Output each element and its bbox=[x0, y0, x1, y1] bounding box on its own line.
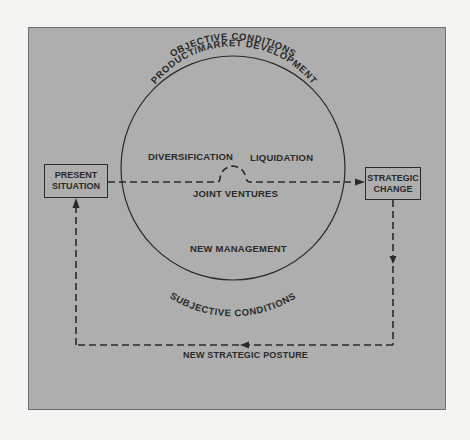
subjective-conditions-label: SUBJECTIVE CONDITIONS bbox=[168, 290, 298, 318]
diagram-canvas: OBJECTIVE CONDITIONS PRODUCT/MARKET DEVE… bbox=[0, 0, 470, 440]
arrow-left-icon bbox=[240, 342, 249, 349]
present-situation-line1: PRESENT bbox=[55, 170, 98, 181]
new-strategic-posture-label: NEW STRATEGIC POSTURE bbox=[183, 350, 308, 360]
strategic-change-node: STRATEGIC CHANGE bbox=[365, 167, 421, 200]
present-situation-line2: SITUATION bbox=[52, 181, 100, 192]
liquidation-label: LIQUIDATION bbox=[250, 152, 313, 163]
arrow-up-icon bbox=[73, 198, 80, 208]
strategic-change-line2: CHANGE bbox=[373, 184, 412, 195]
diversification-label: DIVERSIFICATION bbox=[148, 151, 233, 162]
arrow-down-icon bbox=[390, 256, 397, 264]
arrow-right-icon bbox=[355, 179, 365, 186]
new-management-label: NEW MANAGEMENT bbox=[190, 243, 287, 254]
product-market-development-label: PRODUCT/MARKET DEVELOPMENT bbox=[148, 37, 319, 86]
strategic-change-line1: STRATEGIC bbox=[367, 173, 418, 184]
present-situation-node: PRESENT SITUATION bbox=[44, 164, 108, 198]
joint-ventures-label: JOINT VENTURES bbox=[193, 188, 278, 199]
strategy-path-connector bbox=[108, 166, 356, 182]
